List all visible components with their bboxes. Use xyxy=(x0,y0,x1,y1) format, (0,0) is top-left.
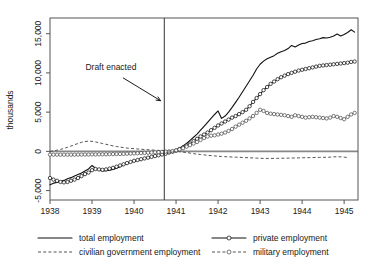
x-tick-label: 1938 xyxy=(41,206,60,216)
y-tick-label: 0 xyxy=(33,149,43,154)
legend-label: civilian government employment xyxy=(79,247,201,257)
x-tick-label: 1941 xyxy=(167,206,186,216)
x-tick-label: 1942 xyxy=(209,206,228,216)
draft-enacted-label: Draft enacted xyxy=(85,62,136,72)
y-tick-label: 15,000 xyxy=(33,20,43,46)
legend-marker-icon xyxy=(227,236,231,240)
x-tick-label: 1939 xyxy=(83,206,102,216)
legend-label: total employment xyxy=(79,233,144,243)
y-axis-title: thousands xyxy=(5,90,15,129)
legend-label: military employment xyxy=(253,247,329,257)
y-tick-label: -5,000 xyxy=(33,178,43,202)
x-tick-label: 1943 xyxy=(251,206,270,216)
y-tick-label: 10,000 xyxy=(33,60,43,86)
legend-label: private employment xyxy=(253,233,328,243)
x-tick-label: 1945 xyxy=(335,206,354,216)
chart-background xyxy=(0,0,377,272)
y-tick-label: 5,000 xyxy=(33,101,43,123)
employment-change-chart: thousands -5,00005,00010,00015,000 19381… xyxy=(0,0,377,272)
x-tick-label: 1940 xyxy=(125,206,144,216)
legend-marker-icon xyxy=(227,250,231,254)
x-tick-label: 1944 xyxy=(293,206,312,216)
